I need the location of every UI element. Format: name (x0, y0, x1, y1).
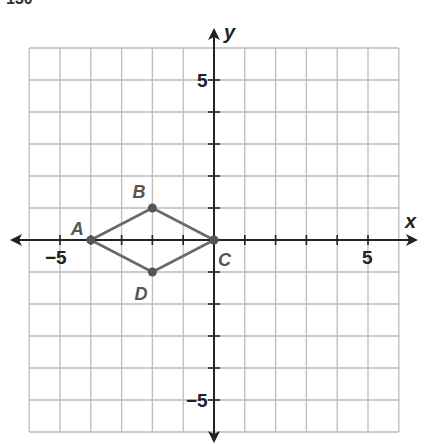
y-tick-label: 5 (197, 70, 208, 91)
point-c (210, 236, 219, 245)
x-axis-label: x (404, 210, 417, 232)
x-tick-label: 5 (362, 247, 373, 268)
y-tick-label: −5 (186, 390, 208, 411)
point-a (86, 236, 95, 245)
y-axis-label: y (223, 21, 236, 43)
point-b (148, 204, 157, 213)
point-d (148, 268, 157, 277)
point-label-d: D (134, 284, 147, 304)
point-label-a: A (70, 219, 84, 239)
point-label-b: B (132, 182, 145, 202)
point-label-c: C (218, 250, 232, 270)
x-tick-label: −5 (45, 247, 67, 268)
coordinate-plane: ABCDxy−555−5 (0, 0, 425, 444)
